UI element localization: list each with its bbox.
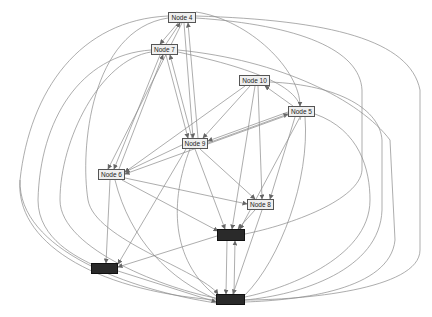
node-4[interactable]: Node 4 bbox=[168, 12, 196, 23]
node-8[interactable]: Node 8 bbox=[247, 199, 274, 210]
node-5[interactable]: Node 5 bbox=[288, 106, 315, 117]
dark-node-1[interactable] bbox=[217, 229, 245, 241]
node-6[interactable]: Node 6 bbox=[98, 169, 125, 180]
node-9[interactable]: Node 9 bbox=[182, 138, 208, 149]
node-10[interactable]: Node 10 bbox=[239, 75, 270, 86]
graph-canvas bbox=[0, 0, 432, 317]
dark-node-2[interactable] bbox=[91, 263, 118, 274]
edges bbox=[20, 12, 420, 303]
node-7[interactable]: Node 7 bbox=[151, 44, 178, 55]
dark-node-3[interactable] bbox=[216, 294, 245, 305]
